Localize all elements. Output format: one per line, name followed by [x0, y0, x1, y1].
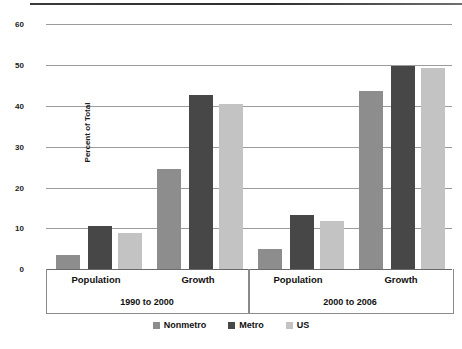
category-label-g2-population: Population	[248, 274, 348, 285]
period-label-1: 1990 to 2000	[46, 297, 248, 307]
ytick-label-20: 20	[2, 184, 24, 193]
bar-g1-population-nonmetro	[56, 255, 80, 269]
bar-g2-population-us	[320, 221, 344, 269]
ytick-label-40: 40	[2, 102, 24, 111]
chart-legend: Nonmetro Metro US	[0, 320, 462, 330]
bar-g2-growth-metro	[391, 66, 415, 269]
ytick-label-10: 10	[2, 224, 24, 233]
bar-g1-population-us	[118, 233, 142, 269]
bar-g1-population-metro	[88, 226, 112, 269]
ytick-label-50: 50	[2, 61, 24, 70]
legend-swatch-metro-icon	[228, 322, 235, 329]
legend-item-nonmetro: Nonmetro	[153, 320, 207, 330]
legend-swatch-nonmetro-icon	[153, 322, 160, 329]
legend-label-nonmetro: Nonmetro	[164, 320, 207, 330]
category-label-g1-population: Population	[46, 274, 146, 285]
plot-area: 60 50 40 30 20 10 0 Percent of Total	[46, 24, 452, 269]
period-label-2: 2000 to 2006	[248, 297, 452, 307]
legend-item-us: US	[286, 320, 310, 330]
ytick-label-60: 60	[2, 20, 24, 29]
legend-label-us: US	[297, 320, 310, 330]
y-axis-title: Percent of Total	[83, 88, 92, 178]
ytick-label-30: 30	[2, 143, 24, 152]
legend-swatch-us-icon	[286, 322, 293, 329]
legend-label-metro: Metro	[239, 320, 264, 330]
bar-g1-growth-nonmetro	[157, 169, 181, 269]
bar-g1-growth-us	[219, 104, 243, 269]
bar-g2-population-metro	[290, 215, 314, 269]
bar-chart: 60 50 40 30 20 10 0 Percent of Total Pop…	[0, 0, 462, 349]
bar-g1-growth-metro	[189, 95, 213, 269]
legend-item-metro: Metro	[228, 320, 264, 330]
bar-g2-population-nonmetro	[258, 249, 282, 269]
ytick-label-0: 0	[2, 265, 24, 274]
gridline-60	[46, 24, 452, 25]
category-label-g1-growth: Growth	[150, 274, 246, 285]
bar-g2-growth-nonmetro	[359, 91, 383, 269]
bar-g2-growth-us	[421, 68, 445, 269]
category-label-g2-growth: Growth	[352, 274, 450, 285]
